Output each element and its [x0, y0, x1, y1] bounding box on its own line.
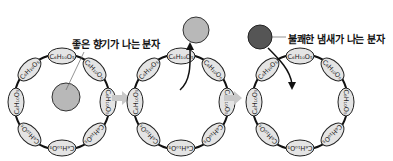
bad-molecule-label: 불쾌한 냄새가 나는 분자 — [288, 31, 385, 46]
good-molecule-released — [183, 17, 209, 43]
ring-panel-3 — [246, 48, 354, 156]
bad-molecule — [248, 25, 272, 49]
cyclodextrin-diagram: C₆H₁₀O₅ — [0, 0, 393, 161]
ring-panel-2 — [127, 48, 235, 156]
good-molecule-label: 좋은 향기가 나는 분자 — [72, 36, 160, 51]
good-molecule-inside — [52, 83, 80, 111]
